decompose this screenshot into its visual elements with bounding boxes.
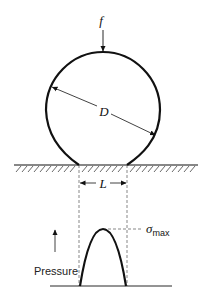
contact-pressure-diagram: f D bbox=[0, 0, 211, 299]
force-label: f bbox=[99, 13, 105, 28]
diameter-label: D bbox=[98, 104, 109, 119]
contact-width-label: L bbox=[98, 176, 106, 191]
ground-surface bbox=[14, 165, 198, 172]
pressure-label: Pressure bbox=[34, 265, 78, 277]
sigma-max-label: σmax bbox=[146, 221, 170, 238]
pressure-distribution-curve bbox=[80, 229, 126, 286]
sigma-subscript: max bbox=[152, 228, 170, 238]
